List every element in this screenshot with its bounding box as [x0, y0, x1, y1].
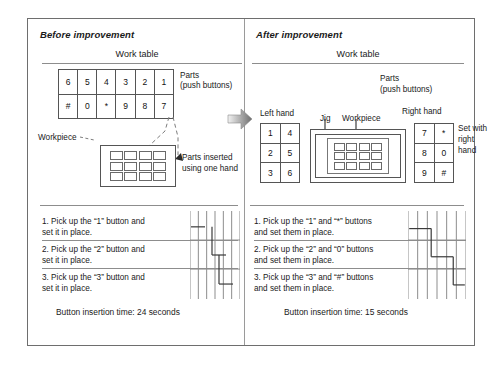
step-text: 2. Pick up the “2” button and set it in …	[42, 242, 192, 266]
left-hand-cell: 6	[281, 163, 301, 183]
button-hole	[359, 162, 370, 170]
button-hole	[110, 172, 123, 181]
left-hand-cell: 2	[261, 144, 281, 164]
step-text: 2. Pick up the “2” and “0” buttons and s…	[254, 242, 414, 266]
button-hole	[139, 172, 152, 181]
after-timing-chart	[408, 211, 466, 299]
after-left-hand-table: 1 4 2 5 3 6	[260, 123, 300, 183]
left-hand-cell: 4	[281, 124, 301, 144]
after-parts-label-line2: (push buttons)	[380, 85, 432, 96]
left-hand-cell: 3	[261, 163, 281, 183]
button-hole	[124, 172, 137, 181]
right-hand-cell: *	[435, 124, 455, 144]
step-item: 2. Pick up the “2” button and set it in …	[42, 242, 192, 268]
right-hand-cell: 7	[415, 124, 435, 144]
step-item: 3. Pick up the “3” button and set it in …	[42, 270, 192, 296]
after-hole-grid	[334, 143, 383, 170]
left-hand-cell: 1	[261, 124, 281, 144]
after-steps-divider	[250, 205, 464, 206]
button-hole	[371, 152, 382, 160]
after-heading: After improvement	[256, 29, 342, 40]
button-hole	[110, 151, 123, 160]
before-heading: Before improvement	[40, 29, 134, 40]
button-hole	[346, 152, 357, 160]
before-steps-divider	[40, 205, 238, 206]
after-workpiece	[327, 138, 389, 174]
after-jig-inner	[315, 134, 401, 178]
button-hole	[346, 162, 357, 170]
after-work-table-label: Work table	[258, 49, 458, 59]
figure-canvas: Before improvement Work table 6 5 4 3 2 …	[0, 0, 498, 366]
step-item: 1. Pick up the “1” button and set it in …	[42, 214, 192, 240]
parts-cell: 4	[97, 70, 116, 95]
after-right-hand-label: Right hand	[402, 107, 442, 118]
button-hole	[124, 151, 137, 160]
button-hole	[334, 162, 345, 170]
after-parts-label-line1: Parts	[380, 74, 399, 85]
right-hand-cell: 0	[435, 144, 455, 164]
before-parts-label-line2: (push buttons)	[180, 81, 232, 92]
parts-cell: 5	[78, 70, 97, 95]
parts-cell: 6	[59, 70, 78, 95]
step-text: 3. Pick up the “3” button and set it in …	[42, 270, 192, 294]
panel-divider	[244, 19, 245, 345]
after-work-table-rule	[252, 63, 464, 64]
figure-frame: Before improvement Work table 6 5 4 3 2 …	[27, 18, 475, 346]
step-item: 2. Pick up the “2” and “0” buttons and s…	[254, 242, 414, 268]
before-inserted-label-line1: Parts inserted	[182, 153, 233, 164]
right-hand-cell: 8	[415, 144, 435, 164]
button-hole	[346, 143, 357, 151]
before-parts-label-line1: Parts	[180, 71, 199, 82]
step-text: 1. Pick up the “1” and “*” buttons and s…	[254, 214, 414, 238]
before-inserted-label-line2: using one hand	[182, 164, 238, 175]
step-item: 3. Pick up the “3” and “#” buttons and s…	[254, 270, 414, 296]
before-parts-table: 6 5 4 3 2 1 # 0 * 9 8 7	[58, 69, 174, 119]
button-hole	[334, 143, 345, 151]
after-insertion-time: Button insertion time: 15 seconds	[284, 307, 408, 317]
before-timing-chart	[190, 211, 240, 299]
before-workpiece-label: Workpiece	[38, 133, 77, 144]
button-hole	[153, 162, 166, 171]
parts-cell: 1	[155, 70, 174, 95]
button-hole	[153, 172, 166, 181]
before-work-table-rule	[42, 63, 242, 64]
button-hole	[359, 152, 370, 160]
transition-arrow-icon	[227, 107, 253, 131]
left-hand-cell: 5	[281, 144, 301, 164]
parts-cell: 2	[136, 70, 155, 95]
step-text: 1. Pick up the “1” button and set it in …	[42, 214, 192, 238]
before-workpiece	[100, 145, 176, 187]
right-hand-cell: #	[435, 163, 455, 183]
button-hole	[153, 151, 166, 160]
button-hole	[124, 162, 137, 171]
before-work-table-label: Work table	[42, 49, 232, 59]
step-text: 3. Pick up the “3” and “#” buttons and s…	[254, 270, 414, 294]
after-right-hand-table: 7 * 8 0 9 #	[414, 123, 454, 183]
button-hole	[139, 151, 152, 160]
after-set-with-right-hand-label: Set with right hand	[458, 123, 492, 156]
before-step-list: 1. Pick up the “1” button and set it in …	[42, 214, 238, 294]
before-insertion-time: Button insertion time: 24 seconds	[56, 307, 180, 317]
button-hole	[371, 143, 382, 151]
button-hole	[139, 162, 152, 171]
button-hole	[359, 143, 370, 151]
button-hole	[110, 162, 123, 171]
parts-cell: 3	[116, 70, 135, 95]
before-hole-grid	[110, 151, 167, 181]
button-hole	[334, 152, 345, 160]
step-item: 1. Pick up the “1” and “*” buttons and s…	[254, 214, 414, 240]
after-step-list: 1. Pick up the “1” and “*” buttons and s…	[254, 214, 466, 294]
button-hole	[371, 162, 382, 170]
after-jig	[310, 129, 406, 183]
after-left-hand-label: Left hand	[260, 109, 294, 120]
right-hand-cell: 9	[415, 163, 435, 183]
